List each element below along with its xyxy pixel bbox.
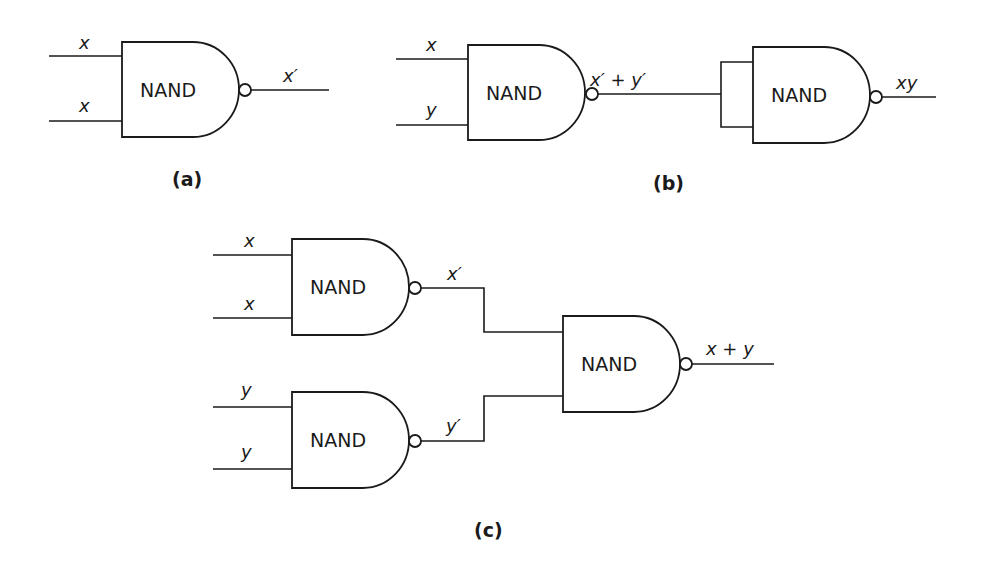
output-label-c: x + y [705,338,754,359]
input-label-b1-2: y [425,99,437,120]
panel-a: x x NAND x′ (a) [49,32,329,190]
gate-label-c1: NAND [310,276,366,298]
wire-c1-to-c3 [421,288,563,332]
panel-c: x x NAND x′ y y NAND y′ NAND x + y (c) [213,230,774,541]
inversion-bubble-a [239,84,251,96]
caption-a: (a) [172,168,202,190]
input-label-c2-1: y [240,379,252,400]
input-label-c1-2: x [243,293,255,314]
input-label-a-2: x [78,95,90,116]
input-label-a-1: x [78,32,90,53]
inversion-bubble-c2 [409,435,421,447]
intermediate-label-c1: x′ [446,263,462,284]
caption-c: (c) [474,519,503,541]
gate-label-c3: NAND [581,353,637,375]
input-label-c2-2: y [240,441,252,462]
intermediate-label-c2: y′ [445,415,461,436]
tied-inputs-bracket-b2 [721,62,753,127]
inversion-bubble-b2 [870,91,882,103]
caption-b: (b) [653,172,684,194]
nand-universality-diagram: x x NAND x′ (a) x y NAND x′ + y′ NAND xy… [0,0,981,569]
output-label-a: x′ [282,65,298,86]
gate-label-c2: NAND [310,429,366,451]
input-label-b1-1: x [425,34,437,55]
inversion-bubble-c3 [680,358,692,370]
input-label-c1-1: x [243,230,255,251]
output-label-b: xy [895,72,918,93]
inversion-bubble-c1 [409,282,421,294]
intermediate-label-b: x′ + y′ [589,69,646,90]
gate-label-b1: NAND [486,82,542,104]
panel-b: x y NAND x′ + y′ NAND xy (b) [396,34,936,194]
wire-c2-to-c3 [421,396,563,441]
gate-label-b2: NAND [771,84,827,106]
gate-label-a: NAND [140,79,196,101]
